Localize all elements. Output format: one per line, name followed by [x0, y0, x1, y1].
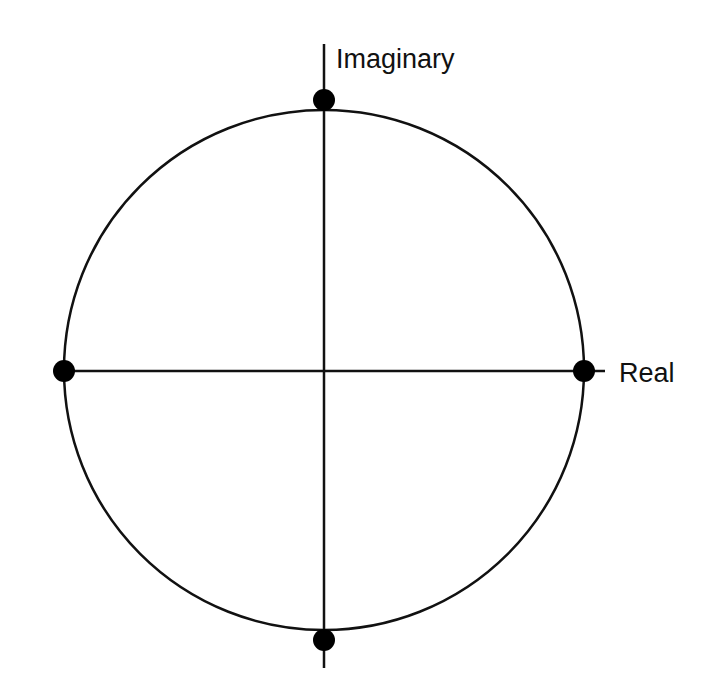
imaginary-axis-label: Imaginary [336, 44, 455, 74]
complex-plane-diagram: Imaginary Real [0, 0, 711, 692]
point-top [313, 89, 335, 111]
real-axis-label: Real [619, 358, 675, 388]
point-right [573, 360, 595, 382]
point-bottom [313, 629, 335, 651]
point-left [53, 360, 75, 382]
